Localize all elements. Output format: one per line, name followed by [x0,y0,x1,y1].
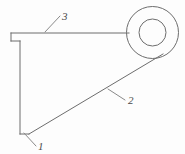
drawing-background [0,0,185,154]
line-drawing-canvas: 1 2 3 [0,0,185,154]
callout-2-label: 2 [128,94,134,106]
technical-drawing-figure: 1 2 3 [0,0,185,154]
callout-1-label: 1 [38,140,44,152]
callout-3-label: 3 [61,10,68,22]
